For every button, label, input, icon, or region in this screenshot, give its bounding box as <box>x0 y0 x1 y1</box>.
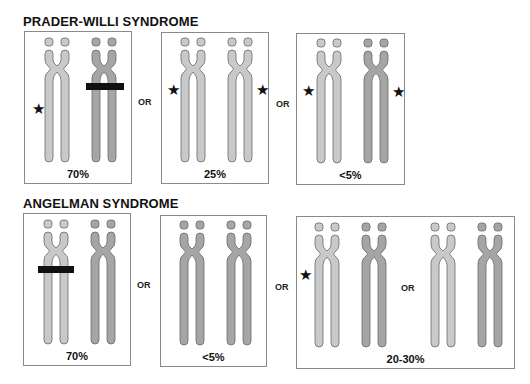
maternal-chromosome <box>180 38 206 164</box>
pw-panel-2: ★ ★ 25% <box>161 32 269 184</box>
paternal-chromosome <box>361 223 387 349</box>
maternal-chromosome <box>227 38 253 164</box>
or-separator: OR <box>137 280 151 290</box>
as-panel-1: 70% <box>23 213 131 366</box>
or-separator: OR <box>276 99 290 109</box>
percent-label: 25% <box>162 168 268 180</box>
maternal-chromosome <box>43 220 69 346</box>
imprinting-star-icon: ★ <box>302 83 315 98</box>
percent-label: <5% <box>297 169 404 181</box>
paternal-chromosome <box>226 221 252 347</box>
maternal-chromosome <box>314 223 340 349</box>
maternal-chromosome <box>430 223 456 349</box>
percent-label: 70% <box>24 350 130 362</box>
imprinting-star-icon: ★ <box>299 267 312 282</box>
pw-panel-3: ★ ★ <5% <box>296 33 405 185</box>
paternal-chromosome <box>363 39 389 165</box>
as-panel-2: <5% <box>160 215 267 367</box>
maternal-chromosome <box>316 39 342 165</box>
or-separator: OR <box>275 282 289 292</box>
imprinting-star-icon: ★ <box>392 84 405 99</box>
maternal-chromosome <box>44 38 70 164</box>
as-panel-3: ★ OR 20-30% <box>296 216 515 369</box>
paternal-chromosome <box>179 221 205 347</box>
deletion-bar-icon <box>86 83 124 90</box>
imprinting-star-icon: ★ <box>167 82 180 97</box>
angelman-title: ANGELMAN SYNDROME <box>23 196 179 211</box>
paternal-chromosome <box>90 220 116 346</box>
percent-label: <5% <box>161 351 266 363</box>
paternal-chromosome <box>477 223 503 349</box>
prader-willi-title: PRADER-WILLI SYNDROME <box>23 14 198 29</box>
pw-panel-1: ★ 70% <box>24 31 132 184</box>
percent-label: 20-30% <box>297 353 514 365</box>
paternal-chromosome <box>91 38 117 164</box>
or-separator: OR <box>401 283 415 293</box>
percent-label: 70% <box>25 168 131 180</box>
imprinting-star-icon: ★ <box>256 82 269 97</box>
deletion-bar-icon <box>38 266 74 273</box>
or-separator: OR <box>138 97 152 107</box>
